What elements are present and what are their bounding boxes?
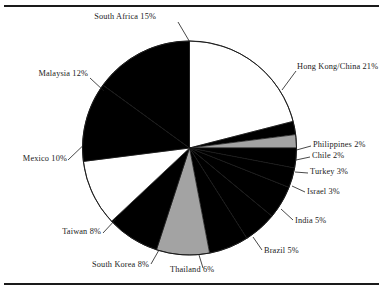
pie-label-israel: Israel 3%	[307, 188, 340, 196]
pie-label-south-africa: South Africa 15%	[62, 13, 156, 21]
pie-label-hong-kong-china: Hong Kong/China 21%	[297, 63, 378, 71]
leader-line-philippines	[297, 146, 312, 150]
pie-label-malaysia: Malaysia 12%	[6, 70, 88, 78]
leader-line-taiwan	[103, 219, 116, 233]
pie-slices-group	[82, 41, 296, 255]
leader-line-mexico	[68, 146, 83, 160]
leader-line-india	[281, 209, 293, 220]
pie-label-turkey: Turkey 3%	[310, 168, 348, 176]
leader-line-hong-kong	[282, 71, 296, 90]
leader-line-chile	[296, 157, 310, 160]
pie-label-taiwan: Taiwan 8%	[22, 228, 101, 236]
leader-line-turkey	[295, 172, 308, 173]
leader-line-south-africa	[178, 22, 190, 42]
leader-line-malaysia	[90, 78, 104, 91]
pie-label-mexico: Mexico 10%	[0, 155, 67, 163]
pie-label-thailand: Thailand 6%	[170, 266, 214, 274]
pie-label-brazil: Brazil 5%	[264, 247, 299, 255]
pie-label-philippines: Philippines 2%	[313, 141, 366, 149]
leader-line-israel	[292, 186, 305, 192]
leader-line-south-korea	[151, 250, 159, 264]
pie-label-south-korea: South Korea 8%	[52, 261, 149, 269]
pie-chart-figure: South Africa 15% Hong Kong/China 21% Mal…	[0, 0, 383, 296]
leader-line-brazil	[253, 237, 262, 250]
pie-label-chile: Chile 2%	[312, 152, 344, 160]
pie-label-india: India 5%	[295, 217, 326, 225]
